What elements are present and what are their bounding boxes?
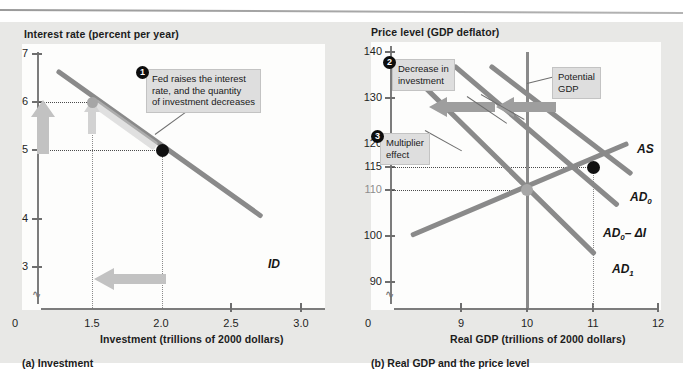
callout-potential-gdp-line-2: GDP [558, 83, 595, 95]
curve-label-ad0-sub: 0 [647, 197, 651, 206]
callout-1-investment: Fed raises the interest rate, and the qu… [146, 69, 261, 113]
callout-3-multiplier-effect: Multiplier effect [380, 133, 430, 165]
x-tick-label-11: 11 [578, 317, 608, 329]
callout-2-line-1: Decrease in [398, 63, 449, 75]
curve-label-ad0: AD0 [630, 190, 652, 206]
axis-break-real-gdp: ∿ [385, 288, 394, 301]
x-tick-label-10: 10 [512, 317, 542, 329]
data-point-initial-equilibrium-investment [156, 144, 169, 157]
callout-badge-3: 3 [371, 130, 384, 143]
y-tick-mark-130 [385, 97, 395, 99]
callout-badge-2: 2 [383, 56, 396, 69]
page-rule [0, 9, 683, 14]
x-tick-mark-3-0 [300, 303, 302, 312]
callout-2-line-2: investment [398, 75, 449, 87]
axis-break-investment: ∿ [32, 288, 41, 301]
y-tick-label-90: 90 [350, 275, 382, 287]
x-tick-label-0: 0 [4, 317, 26, 329]
curve-label-addelta-tail: – ΔI [625, 226, 646, 240]
y-axis-title-real-gdp: Price level (GDP deflator) [371, 26, 499, 38]
data-point-new-equilibrium-gdp [521, 184, 533, 196]
data-point-new-equilibrium-investment [87, 97, 98, 108]
y-tick-mark-3 [32, 266, 42, 268]
x-tick-mark-12 [657, 303, 659, 312]
y-tick-label-140: 140 [350, 45, 382, 57]
y-tick-mark-100 [385, 235, 395, 237]
x-axis-line-investment [41, 308, 325, 310]
curve-label-ad1: AD1 [612, 262, 634, 278]
x-axis-title-investment: Investment (trillions of 2000 dollars) [100, 333, 284, 345]
callout-potential-gdp: Potential GDP [552, 67, 601, 99]
x-tick-label-1-5: 1.5 [77, 317, 107, 329]
callout-1-line-2: rate, and the quantity [152, 85, 255, 97]
curve-label-ad1-base: AD [612, 262, 629, 276]
x-tick-label-2-5: 2.5 [216, 317, 246, 329]
arrow-left-investment-quantity [94, 267, 166, 291]
y-tick-mark-4 [32, 218, 42, 220]
curve-label-id: ID [268, 257, 280, 271]
arrow-left-multiplier-effect [429, 96, 495, 118]
y-tick-label-115: 115 [350, 160, 382, 172]
curve-label-ad0-base: AD [630, 190, 647, 204]
callout-2-decrease-in-investment: Decrease in investment [392, 59, 455, 91]
y-tick-mark-90 [385, 281, 395, 283]
callout-badge-1: 1 [136, 66, 149, 79]
data-point-initial-equilibrium-gdp [587, 161, 600, 174]
y-tick-label-110: 110 [350, 183, 382, 195]
x-tick-label-2-0: 2.0 [146, 317, 176, 329]
y-tick-label-100: 100 [350, 229, 382, 241]
curve-label-as: AS [637, 142, 654, 156]
curve-label-ad0-minus-delta-i: AD0– ΔI [603, 226, 646, 242]
x-tick-label-3-0: 3.0 [286, 317, 316, 329]
callout-1-line-1: Fed raises the interest [152, 73, 255, 85]
callout-1-line-3: of investment decreases [152, 96, 255, 108]
panel-caption-b: (b) Real GDP and the price level [371, 357, 530, 369]
y-tick-label-4: 4 [6, 212, 28, 224]
x-tick-label-12: 12 [643, 317, 673, 329]
callout-3-line-2: effect [386, 149, 424, 161]
callout-potential-gdp-line-1: Potential [558, 71, 595, 83]
y-tick-label-7: 7 [6, 47, 28, 59]
y-tick-label-130: 130 [350, 91, 382, 103]
x-tick-label-9: 9 [446, 317, 476, 329]
callout-3-line-1: Multiplier [386, 137, 424, 149]
x-tick-label-0-gdp: 0 [357, 317, 379, 329]
y-tick-mark-140 [385, 51, 395, 53]
y-tick-mark-7 [32, 53, 42, 55]
panel-caption-a: (a) Investment [22, 357, 93, 369]
curve-label-ad1-sub: 1 [629, 269, 633, 278]
y-tick-label-3: 3 [6, 260, 28, 272]
arrow-up-interest-rate [30, 100, 56, 154]
guide-h-5 [39, 150, 163, 151]
x-tick-mark-2-5 [230, 303, 232, 312]
y-tick-label-5: 5 [6, 143, 28, 155]
x-axis-title-real-gdp: Real GDP (trillions of 2000 dollars) [450, 333, 626, 345]
x-tick-mark-9 [460, 303, 462, 312]
y-tick-label-6: 6 [6, 95, 28, 107]
curve-label-addelta-base: AD [603, 226, 620, 240]
figure-panel: Interest rate (percent per year) ∿ 7 6 5… [0, 22, 683, 363]
y-axis-title-investment: Interest rate (percent per year) [24, 28, 179, 40]
